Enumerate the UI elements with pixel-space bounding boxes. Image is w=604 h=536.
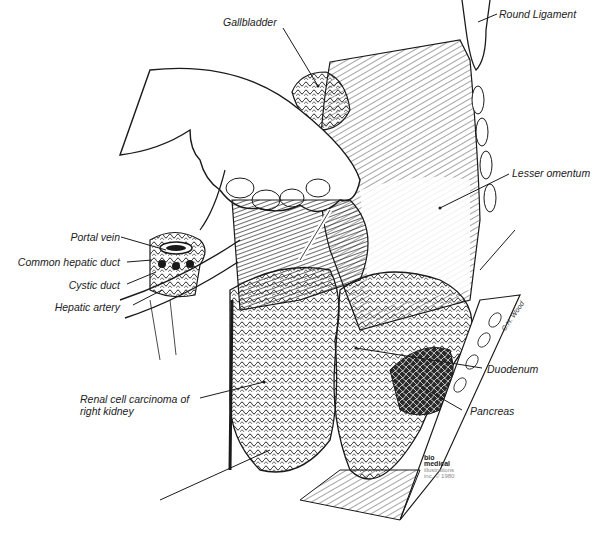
label-round-ligament: Round Ligament: [499, 8, 576, 20]
label-right-kidney: right kidney: [80, 405, 134, 417]
label-common-hepatic-duct: Common hepatic duct: [18, 256, 120, 268]
renal-carcinoma-shape: [230, 268, 339, 473]
label-renal-cell-carcinoma: Renal cell carcinoma of: [80, 393, 189, 405]
publisher-credit: bio medical illustrations inc. © 1980: [424, 455, 454, 479]
label-hepatic-artery: Hepatic artery: [55, 301, 120, 313]
anatomical-illustration: Gallbladder Round Ligament Lesser omentu…: [0, 0, 604, 536]
label-pancreas: Pancreas: [470, 405, 514, 417]
label-lesser-omentum: Lesser omentum: [512, 167, 590, 179]
label-portal-vein: Portal vein: [70, 231, 120, 243]
credit-line4: inc. © 1980: [424, 473, 454, 479]
label-gallbladder: Gallbladder: [223, 16, 277, 28]
label-duodenum: Duodenum: [487, 363, 538, 375]
illustration-artwork: [0, 0, 604, 536]
label-cystic-duct: Cystic duct: [69, 279, 120, 291]
porta-hepatis-cross-section: [120, 170, 240, 360]
